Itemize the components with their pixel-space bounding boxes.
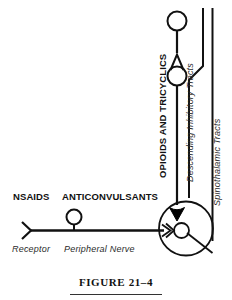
figure-caption-block: FIGURE 21–4 [0, 272, 232, 295]
label-anticonvulsants: ANTICONVULSANTS [62, 192, 158, 202]
label-descending-inhibitory-tracts: Descending Inhibitory Tracts [186, 63, 195, 182]
label-receptor: Receptor [12, 245, 50, 254]
receptor-chevron-icon [22, 222, 31, 239]
label-nsaids: NSAIDS [13, 192, 50, 202]
dorsal-horn-cell-body-circle [174, 223, 189, 238]
figure-container: OPIOIDS AND TRICYCLICS Descending Inhibi… [0, 0, 232, 300]
label-spinothalamic-tracts: Spinothalamic Tracts [213, 119, 222, 206]
second-order-cell-body-circle [168, 67, 187, 86]
figure-caption-text: FIGURE 21–4 [79, 276, 153, 288]
nerve-cell-body-circle [67, 210, 82, 225]
top-neuron-cell-body-circle [168, 12, 187, 31]
caption-divider [70, 294, 162, 295]
pain-pathway-diagram [0, 0, 232, 300]
label-opioids-and-tricyclics: OPIOIDS AND TRICYCLICS [158, 54, 168, 178]
filled-terminal-bouton-icon [170, 208, 185, 222]
label-peripheral-nerve: Peripheral Nerve [64, 245, 135, 254]
